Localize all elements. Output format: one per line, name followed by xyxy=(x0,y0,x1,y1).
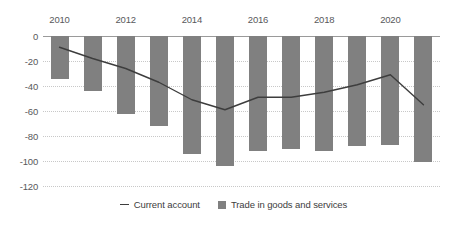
square-marker-icon xyxy=(218,201,226,209)
line-marker-icon xyxy=(120,204,129,205)
x-tick-label-2020: 2020 xyxy=(380,14,400,25)
bar-2020 xyxy=(381,36,399,145)
bar-2021 xyxy=(414,36,432,162)
x-tick-label-2014: 2014 xyxy=(182,14,202,25)
y-tick-label-0: 0 xyxy=(33,31,38,42)
bar-2016 xyxy=(249,36,267,151)
bar-2015 xyxy=(216,36,234,166)
legend-label-trade-in-goods-and-services: Trade in goods and services xyxy=(231,199,347,210)
bar-2017 xyxy=(282,36,300,149)
x-tick-label-2016: 2016 xyxy=(248,14,268,25)
y-tick-label--120: -120 xyxy=(20,181,38,192)
legend-item-trade-in-goods-and-services[interactable]: Trade in goods and services xyxy=(218,199,347,210)
y-tick-label--100: -100 xyxy=(20,156,38,167)
bar-2012 xyxy=(117,36,135,114)
y-tick-label--40: -40 xyxy=(25,81,38,92)
bar-2011 xyxy=(84,36,102,91)
x-tick-label-2018: 2018 xyxy=(314,14,334,25)
chart-legend: Current account Trade in goods and servi… xyxy=(0,199,467,210)
bar-2010 xyxy=(51,36,69,79)
bar-2018 xyxy=(315,36,333,151)
plot-area xyxy=(43,36,440,186)
gridline--100 xyxy=(43,161,440,162)
bar-2019 xyxy=(348,36,366,146)
chart-container: 201020122014201620182020 0-20-40-60-80-1… xyxy=(0,0,467,232)
x-tick-label-2010: 2010 xyxy=(49,14,69,25)
x-axis-labels: 201020122014201620182020 xyxy=(43,14,440,30)
gridline--120 xyxy=(43,186,440,187)
bar-2013 xyxy=(150,36,168,126)
x-tick-label-2012: 2012 xyxy=(116,14,136,25)
bar-2014 xyxy=(183,36,201,154)
y-tick-label--60: -60 xyxy=(25,106,38,117)
y-tick-label--80: -80 xyxy=(25,131,38,142)
legend-item-current-account[interactable]: Current account xyxy=(120,199,200,210)
legend-label-current-account: Current account xyxy=(134,199,200,210)
y-tick-label--20: -20 xyxy=(25,56,38,67)
y-axis-labels: 0-20-40-60-80-100-120 xyxy=(0,36,38,186)
